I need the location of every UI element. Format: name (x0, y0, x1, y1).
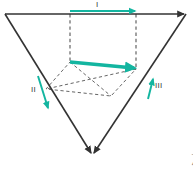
figure-canvas: I II III 中 专 (0, 0, 193, 169)
corner-caption: 中 专 (192, 151, 193, 167)
vector-diagram (0, 0, 193, 169)
vector-label-one: I (96, 1, 99, 9)
center-vector-arrow (70, 62, 134, 68)
triangle-right-edge (94, 14, 186, 153)
triangle-left-edge (5, 14, 91, 153)
vector-label-two: II (31, 86, 36, 94)
vector-label-three: III (155, 82, 163, 90)
dashed-diagonal-b (46, 69, 136, 89)
vector-III-arrow (148, 79, 153, 99)
